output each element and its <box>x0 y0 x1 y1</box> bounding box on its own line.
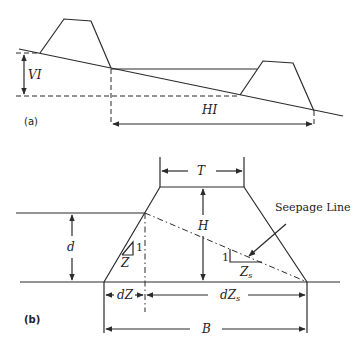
dzs-label: dZs <box>220 288 240 303</box>
seepage-line <box>145 213 307 282</box>
t-label: T <box>197 164 206 178</box>
panel-b: T H d 1 Z 1 Zs Seepage Line dZ dZs <box>16 157 351 336</box>
upstream-slope-run: Z <box>120 256 130 270</box>
hi-label: HI <box>201 103 217 117</box>
panel-a-label: (a) <box>24 116 38 127</box>
seepage-slope-rise: 1 <box>222 251 229 264</box>
b-label: B <box>201 322 211 336</box>
dz-label: dZ <box>117 288 134 302</box>
d-label: d <box>67 240 75 254</box>
panel-b-label: (b) <box>24 314 40 325</box>
terrace-diagram: VI HI (a) T H d 1 Z <box>0 0 355 350</box>
upstream-slope-rise: 1 <box>136 241 143 254</box>
seepage-line-callout-arrow <box>249 224 286 256</box>
vi-label: VI <box>28 68 42 82</box>
h-label: H <box>197 219 209 233</box>
panel-a: VI HI (a) <box>16 19 343 127</box>
seepage-line-label: Seepage Line <box>275 201 351 214</box>
seepage-slope-run: Zs <box>239 265 252 280</box>
ground-slope-line <box>19 49 343 116</box>
